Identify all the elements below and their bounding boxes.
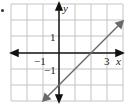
axes (11, 3, 123, 102)
coordinate-plane (0, 0, 128, 105)
x-axis-label: x (116, 56, 121, 67)
y-axis-label: y (63, 3, 68, 14)
y-tick-1: 1 (50, 32, 56, 43)
y-tick-neg1: −1 (44, 65, 56, 76)
x-tick-3: 3 (104, 56, 110, 67)
